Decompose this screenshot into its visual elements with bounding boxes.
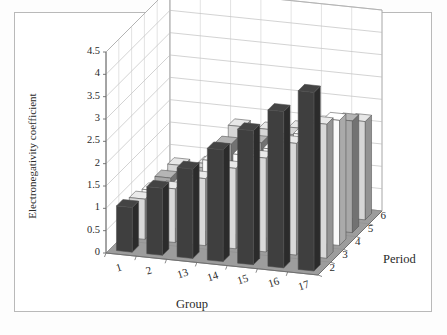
y-tick-label-0: 0 bbox=[74, 246, 100, 257]
z-axis-label: Period bbox=[383, 252, 416, 267]
z-tick-label-2: 2 bbox=[329, 261, 335, 273]
y-tick-label-0.5: 0.5 bbox=[74, 224, 100, 235]
z-tick-label-6: 6 bbox=[381, 209, 387, 221]
z-tick-label-5: 5 bbox=[368, 222, 374, 234]
z-tick-label-3: 3 bbox=[342, 248, 348, 260]
x-axis-label: Group bbox=[176, 297, 208, 312]
y-tick-label-2.5: 2.5 bbox=[74, 134, 100, 145]
y-tick-label-4.5: 4.5 bbox=[74, 45, 100, 56]
y-tick-label-1.5: 1.5 bbox=[74, 179, 100, 190]
chart-3d-bar-plot bbox=[0, 0, 447, 335]
y-tick-label-3.5: 3.5 bbox=[74, 90, 100, 101]
y-tick-label-2: 2 bbox=[74, 157, 100, 168]
figure-container: 00.511.522.533.544.512131415161723456 El… bbox=[0, 0, 447, 335]
y-tick-label-3: 3 bbox=[74, 112, 100, 123]
z-tick-label-4: 4 bbox=[355, 235, 361, 247]
y-axis-label: Electronegativity coefficient bbox=[26, 66, 38, 246]
y-tick-label-1: 1 bbox=[74, 201, 100, 212]
y-tick-label-4: 4 bbox=[74, 67, 100, 78]
